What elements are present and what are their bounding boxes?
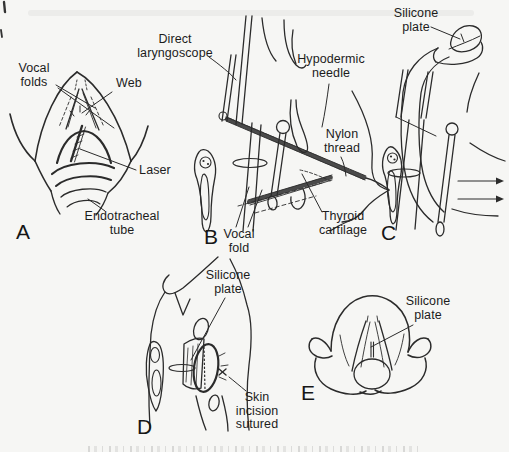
label-laser: Laser	[135, 164, 175, 178]
panel-letter-d: D	[137, 416, 152, 437]
label-silicone-plate-c: Silicone plate	[392, 7, 440, 34]
glottis-opening	[354, 359, 390, 389]
needle-probe-drawing-c	[436, 123, 458, 236]
panel-c-drawing	[383, 26, 505, 236]
scan-artifact-marks	[1, 2, 5, 37]
label-silicone-plate-d: Silicone plate	[202, 269, 254, 296]
vocal-folds-drawing	[59, 89, 104, 130]
silicone-plate-edge	[371, 342, 374, 357]
direction-arrow	[458, 196, 504, 203]
label-nylon-thread: Nylon thread	[318, 128, 366, 155]
panel-letter-b: B	[204, 226, 218, 247]
direct-laryngoscope-drawing	[222, 16, 252, 124]
label-hypodermic-needle: Hypodermic needle	[291, 53, 371, 80]
figure-page: Vocal folds Web Laser Endotracheal tube …	[0, 0, 509, 452]
vocal-folds-endoscopic	[340, 316, 404, 371]
label-silicone-plate-e: Silicone plate	[402, 295, 454, 322]
panel-a-drawing	[10, 72, 148, 215]
direction-arrow	[458, 178, 504, 185]
panel-letter-a: A	[16, 221, 30, 242]
suture-x-mark	[219, 369, 226, 375]
endotracheal-tube-drawing	[51, 131, 114, 215]
leader-line-e	[371, 325, 413, 347]
nylon-thread-through-cartilage	[238, 170, 332, 213]
label-endotracheal-tube: Endotracheal tube	[74, 210, 170, 237]
panel-letter-e: E	[301, 382, 315, 403]
cropped-caption-remnant	[88, 446, 424, 452]
label-thyroid-cartilage: Thyroid cartilage	[312, 210, 374, 237]
panel-letter-c: C	[381, 222, 396, 243]
hyoid-bone-section-c	[383, 147, 402, 224]
web-drawing	[75, 80, 87, 90]
label-skin-incision-sutured: Skin incision sutured	[228, 391, 286, 432]
leader-lines-d	[191, 298, 246, 391]
vocal-fold-lateral-shape	[233, 159, 267, 168]
label-web: Web	[110, 77, 148, 91]
neck-lines-c	[396, 73, 505, 230]
panel-b-drawing	[195, 16, 389, 232]
label-vocal-folds: Vocal folds	[12, 62, 56, 89]
label-direct-laryngoscope: Direct laryngoscope	[133, 33, 217, 60]
hyoid-bone-section	[195, 150, 216, 232]
label-vocal-fold: Vocal fold	[218, 228, 260, 255]
